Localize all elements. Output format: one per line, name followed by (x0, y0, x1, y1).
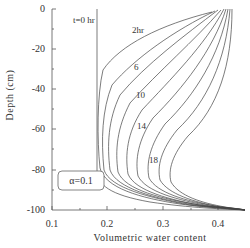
y-tick-40: -40 (32, 83, 45, 94)
label-10: 10 (136, 90, 146, 100)
y-ticks (52, 9, 56, 190)
label-t0: t=0 hr (73, 15, 95, 25)
y-axis-label: Depth (cm) (4, 70, 16, 121)
y-tick-100: -100 (27, 204, 45, 215)
x-tick-labels: 0.1 0.2 0.3 0.4 (46, 218, 225, 229)
x-tick-0.2: 0.2 (101, 218, 114, 229)
curve-2hr (98, 12, 245, 210)
label-18: 18 (149, 155, 159, 165)
y-tick-labels: 0 -20 -40 -60 -80 -100 (27, 3, 45, 215)
alpha-label: α=0.1 (69, 175, 92, 186)
y-tick-20: -20 (32, 43, 45, 54)
x-tick-0.3: 0.3 (157, 218, 170, 229)
alpha-annotation: α=0.1 (58, 171, 104, 190)
curve-10hr (127, 9, 245, 210)
curve-18hr (170, 9, 245, 210)
label-14: 14 (137, 121, 147, 131)
x-tick-0.4: 0.4 (212, 218, 225, 229)
y-tick-0: 0 (40, 3, 45, 14)
label-6: 6 (134, 62, 139, 72)
curve-16hr (159, 9, 245, 210)
y-tick-80: -80 (32, 164, 45, 175)
curve-t0 (97, 9, 245, 210)
label-2hr: 2hr (132, 25, 144, 35)
curve-12hr (137, 9, 245, 210)
chart: 0 -20 -40 -60 -80 -100 0.1 0.2 0.3 0.4 V… (0, 0, 250, 248)
y-tick-60: -60 (32, 123, 45, 134)
curve-6hr (109, 10, 245, 210)
x-tick-0.1: 0.1 (46, 218, 59, 229)
curves (97, 9, 245, 210)
x-axis-label: Volumetric water content (94, 232, 207, 243)
